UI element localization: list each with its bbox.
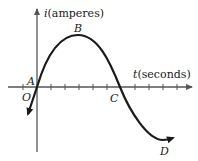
point-b-label: B — [73, 22, 82, 35]
point-d-label: D — [159, 145, 169, 158]
current-time-graph: i(amperes) t(seconds) B A O C D — [0, 0, 198, 161]
point-c-label: C — [110, 92, 119, 105]
x-axis-label: t(seconds) — [133, 68, 191, 81]
point-a-label: A — [26, 75, 35, 88]
y-axis-label: i(amperes) — [44, 7, 104, 20]
origin-label: O — [22, 91, 31, 104]
